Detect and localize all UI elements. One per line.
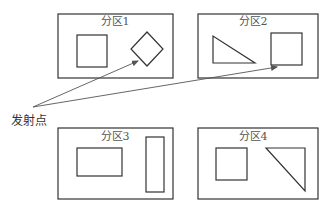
square-shape <box>77 35 107 67</box>
partition-3-label: 分区3 <box>101 130 130 143</box>
partition-4-label: 分区4 <box>239 130 268 143</box>
diagram-canvas: 分区1 分区2 分区3 分区4 发射点 <box>0 0 327 212</box>
diamond-shape <box>131 32 163 66</box>
launch-point-label: 发射点 <box>11 113 47 128</box>
partition-3: 分区3 <box>58 128 173 199</box>
tall-rectangle-shape <box>146 137 164 192</box>
partition-2-label: 分区2 <box>239 15 268 28</box>
partition-2: 分区2 <box>198 14 318 78</box>
triangle-shape <box>266 148 305 191</box>
partition-diagram: 分区1 分区2 分区3 分区4 发射点 <box>0 0 327 212</box>
triangle-shape <box>213 36 255 63</box>
partition-1-label: 分区1 <box>101 15 130 28</box>
partition-4: 分区4 <box>198 128 318 199</box>
rectangle-shape <box>77 148 122 176</box>
arrow-to-partition-1 <box>33 61 138 107</box>
square-shape <box>271 33 302 65</box>
square-shape <box>216 148 247 180</box>
arrow-to-partition-2 <box>33 67 277 107</box>
partition-1: 分区1 <box>58 14 173 78</box>
